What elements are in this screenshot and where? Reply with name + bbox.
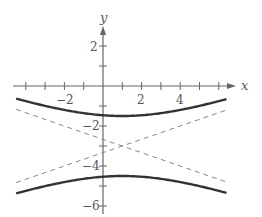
y-tick-label-neg6: −6 — [82, 199, 100, 213]
y-tick-label-neg2: −2 — [82, 119, 100, 133]
y-tick-label-neg4: −4 — [82, 159, 100, 173]
y-axis-label: y — [99, 10, 108, 25]
curves — [16, 99, 226, 194]
x-axis-arrow-icon — [227, 83, 236, 89]
x-axis-label: x — [241, 78, 249, 93]
y-tick-label-2: 2 — [90, 40, 98, 54]
x-tick-label-neg2: −2 — [56, 93, 74, 107]
hyperbola-chart: −2 2 4 2 −2 −4 −6 x y — [0, 0, 262, 217]
hyperbola-lower-branch — [16, 176, 226, 193]
hyperbola-upper-branch — [16, 99, 226, 116]
y-axis-arrow-icon — [100, 26, 106, 35]
x-tick-label-4: 4 — [176, 93, 184, 107]
asymptote-line — [16, 110, 226, 183]
x-tick-label-2: 2 — [137, 93, 145, 107]
asymptote-line — [16, 109, 226, 182]
